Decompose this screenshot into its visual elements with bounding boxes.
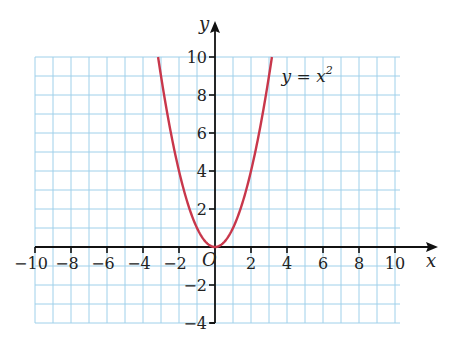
y-tick-label: 10 (187, 48, 207, 67)
x-tick-label: −8 (55, 254, 79, 273)
y-tick-label: 2 (197, 200, 207, 219)
y-axis-label: y (198, 13, 210, 34)
y-tick-label: 8 (197, 86, 207, 105)
y-tick-label: −2 (183, 276, 207, 295)
y-tick-label: 6 (197, 124, 207, 143)
x-tick-label: 10 (385, 254, 405, 273)
x-tick-label: −4 (127, 254, 151, 273)
y-tick-label: −4 (183, 314, 207, 333)
y-tick-label: 4 (197, 162, 207, 181)
x-tick-label: −6 (91, 254, 115, 273)
origin-label: O (202, 249, 217, 270)
grid-lines (35, 57, 400, 323)
equation-label: y = x2 (281, 64, 333, 86)
axes (35, 21, 438, 323)
x-tick-label: −2 (163, 254, 187, 273)
x-tick-label: 4 (282, 254, 292, 273)
x-tick-label: 8 (354, 254, 364, 273)
chart: −10−8−6−4−2246810108642−2−4 x y O y = x2 (0, 0, 453, 353)
x-tick-label: 6 (318, 254, 328, 273)
equation-text: y = x (281, 66, 327, 86)
x-tick-label: −10 (14, 254, 48, 273)
equation-exponent: 2 (325, 64, 333, 77)
x-axis-label: x (426, 250, 436, 271)
x-tick-label: 2 (246, 254, 256, 273)
